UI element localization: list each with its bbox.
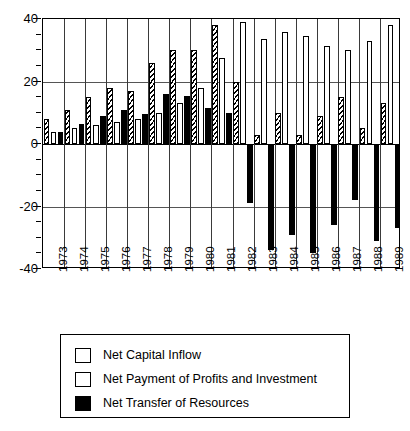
bar-1984-series-3 (289, 144, 295, 235)
bar-1989-series-2 (388, 25, 394, 144)
legend-item-3: Net Transfer of Resources (75, 394, 249, 412)
bar-1973-series-3 (58, 132, 64, 145)
bar-1977-series-3 (142, 114, 148, 144)
bar-group-1976 (106, 19, 127, 267)
plot-inner (43, 19, 399, 267)
x-tick-label-1976: 1976 (121, 246, 133, 272)
bar-1979-series-3 (184, 96, 190, 144)
bar-1984-series-2 (282, 32, 288, 145)
bar-1975-series-3 (100, 116, 106, 144)
legend-label: Net Payment of Profits and Investment (103, 372, 317, 386)
x-tick-label-1986: 1986 (331, 246, 343, 272)
bar-1974-series-1 (65, 110, 71, 144)
legend-label: Net Transfer of Resources (103, 396, 249, 410)
y-axis-minor-tick (36, 159, 41, 160)
y-axis-major-tick (33, 143, 41, 144)
bar-1980-series-3 (205, 108, 211, 144)
bar-group-1982 (233, 19, 254, 267)
y-axis-minor-tick (36, 112, 41, 113)
bar-1985-series-2 (303, 36, 309, 144)
y-axis-minor-tick (36, 65, 41, 66)
bar-group-1988 (359, 19, 380, 267)
x-axis-labels: 1973197419751976197719781979198019811982… (42, 270, 400, 322)
bar-1974-series-2 (72, 128, 78, 144)
bar-1987-series-2 (345, 50, 351, 144)
bar-chart-figure: -40-2002040 1973197419751976197719781979… (0, 0, 410, 431)
y-axis-minor-tick (36, 252, 41, 253)
bar-group-1979 (169, 19, 190, 267)
bar-1989-series-3 (395, 144, 401, 228)
bar-1985-series-3 (310, 144, 316, 253)
x-tick-label-1974: 1974 (79, 246, 91, 272)
bar-1982-series-3 (247, 144, 253, 203)
bar-1988-series-2 (367, 41, 373, 144)
x-tick-label-1981: 1981 (226, 246, 238, 272)
y-axis-minor-tick (36, 49, 41, 50)
legend-label: Net Capital Inflow (103, 348, 201, 362)
x-tick-label-1977: 1977 (142, 246, 154, 272)
x-tick-label-1975: 1975 (100, 246, 112, 272)
bar-1973-series-1 (44, 119, 50, 144)
bar-1978-series-3 (163, 94, 169, 144)
y-axis-minor-tick (36, 174, 41, 175)
bar-1974-series-3 (79, 124, 85, 144)
x-tick-label-1988: 1988 (373, 246, 385, 272)
x-tick-label-1984: 1984 (289, 246, 301, 272)
bar-1983-series-3 (268, 144, 274, 250)
bar-1988-series-1 (360, 128, 366, 144)
bar-1982-series-2 (240, 22, 246, 144)
bar-1973-series-2 (51, 132, 57, 145)
bar-1978-series-2 (156, 113, 162, 144)
bar-group-1977 (127, 19, 148, 267)
bar-1975-series-1 (86, 97, 92, 144)
x-tick-label-1989: 1989 (394, 246, 406, 272)
y-axis-major-tick (33, 206, 41, 207)
bar-group-1975 (85, 19, 106, 267)
legend-item-1: Net Capital Inflow (75, 346, 201, 364)
bar-1975-series-2 (93, 125, 99, 144)
bar-1986-series-1 (317, 116, 323, 144)
x-tick-label-1980: 1980 (205, 246, 217, 272)
bar-1979-series-1 (170, 50, 176, 144)
y-axis-minor-tick (36, 221, 41, 222)
bar-1977-series-1 (128, 91, 134, 144)
bar-1987-series-1 (338, 97, 344, 144)
bar-group-1983 (254, 19, 275, 267)
plot-area (42, 18, 400, 268)
chart-legend: Net Capital InflowNet Payment of Profits… (60, 334, 350, 418)
bar-group-1987 (338, 19, 359, 267)
legend-item-2: Net Payment of Profits and Investment (75, 370, 317, 388)
bar-1979-series-2 (177, 103, 183, 144)
legend-swatch-black (75, 396, 91, 411)
x-tick-label-1983: 1983 (268, 246, 280, 272)
bar-1986-series-2 (324, 46, 330, 144)
legend-swatch-hatched (75, 348, 91, 363)
bar-1982-series-1 (233, 82, 239, 145)
y-axis-minor-tick (36, 127, 41, 128)
bar-1981-series-3 (226, 113, 232, 144)
bar-group-1978 (148, 19, 169, 267)
bar-group-1984 (275, 19, 296, 267)
bar-1988-series-3 (374, 144, 380, 241)
bar-1980-series-2 (198, 88, 204, 144)
x-tick-label-1985: 1985 (310, 246, 322, 272)
y-axis-minor-tick (36, 237, 41, 238)
bar-1978-series-1 (149, 63, 155, 144)
bar-group-1980 (190, 19, 211, 267)
bar-1987-series-3 (352, 144, 358, 200)
x-tick-label-1978: 1978 (163, 246, 175, 272)
bar-group-1981 (211, 19, 232, 267)
bar-1976-series-1 (107, 88, 113, 144)
legend-swatch-white (75, 372, 91, 387)
bar-1981-series-2 (219, 58, 225, 144)
x-tick-label-1982: 1982 (247, 246, 259, 272)
bar-1984-series-1 (275, 113, 281, 144)
bar-group-1973 (43, 19, 64, 267)
bar-1976-series-3 (121, 110, 127, 144)
x-tick-label-1973: 1973 (58, 246, 70, 272)
y-axis-major-tick (33, 268, 41, 269)
y-axis-major-tick (33, 81, 41, 82)
y-axis-minor-tick (36, 34, 41, 35)
y-axis-labels: -40-2002040 (4, 0, 38, 431)
bar-group-1974 (64, 19, 85, 267)
